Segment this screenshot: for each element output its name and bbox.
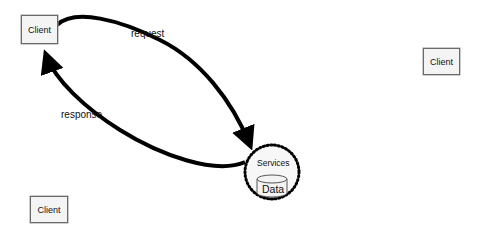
request-label: request [131, 28, 164, 39]
client-node-right: Client [423, 48, 460, 75]
client-label: Client [37, 205, 60, 215]
client-node-top-left: Client [21, 15, 58, 44]
data-label: Data [262, 183, 284, 195]
response-label: response [61, 109, 102, 120]
client-label: Client [430, 57, 453, 67]
client-node-bottom-left: Client [30, 196, 68, 223]
client-label: Client [28, 25, 51, 35]
services-label: Services [257, 158, 290, 168]
